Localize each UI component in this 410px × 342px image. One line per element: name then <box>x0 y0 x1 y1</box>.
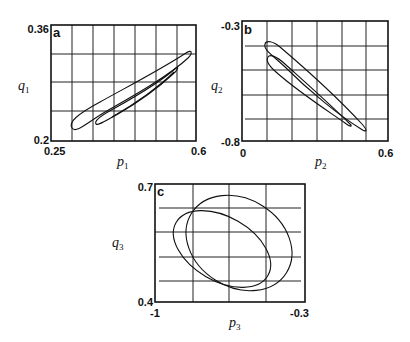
panel-a-frame <box>51 25 196 141</box>
panel-a-xmax-tick: 0.6 <box>191 145 206 157</box>
panel-a-grid <box>51 25 196 141</box>
panel-c-orbits <box>160 176 310 310</box>
panel-b-ymax-tick: -0.3 <box>221 20 240 32</box>
panel-b-ylabel: q2 <box>211 78 223 95</box>
panel-a-xlabel: p1 <box>116 154 129 171</box>
panel-c: c 0.7 0.4 -1 -0.3 p3 q3 <box>112 176 310 332</box>
panel-c-xlabel: p3 <box>228 315 241 332</box>
panel-c-letter: c <box>157 184 164 199</box>
panel-a-outer-orbit <box>71 51 191 129</box>
panel-a-letter: a <box>53 25 61 40</box>
panel-a-ylabel: q1 <box>18 78 30 95</box>
panel-b-inner-orbit <box>267 56 351 126</box>
panel-a-ymax-tick: 0.36 <box>28 23 49 35</box>
panel-b-grid <box>242 21 388 141</box>
panel-a: a 0.36 0.2 0.25 0.6 p1 q1 <box>18 23 206 171</box>
panel-c-outer-orbit <box>168 176 310 310</box>
panel-b: b -0.3 -0.8 0 0.6 p2 q2 <box>211 20 393 171</box>
panel-c-ylabel: q3 <box>112 235 124 252</box>
panel-b-xmin-tick: 0 <box>240 147 246 159</box>
panel-c-xmin-tick: -1 <box>150 307 160 319</box>
figure: a 0.36 0.2 0.25 0.6 p1 q1 b -0.3 -0.8 0 … <box>0 0 410 342</box>
panel-b-ymin-tick: -0.8 <box>221 136 240 148</box>
panel-a-inner-orbit <box>96 67 178 124</box>
panel-c-inner-orbit <box>160 195 284 303</box>
panel-c-grid <box>155 184 301 302</box>
panel-b-orbits <box>265 42 366 131</box>
panel-b-letter: b <box>244 22 252 37</box>
panel-b-xlabel: p2 <box>314 154 327 171</box>
panel-a-orbits <box>71 51 191 129</box>
panel-c-ymax-tick: 0.7 <box>138 181 153 193</box>
panel-b-outer-orbit <box>265 42 366 131</box>
panel-a-xmin-tick: 0.25 <box>44 145 65 157</box>
panel-b-xmax-tick: 0.6 <box>378 147 393 159</box>
panel-c-xmax-tick: -0.3 <box>290 307 309 319</box>
panel-c-frame <box>155 184 305 302</box>
